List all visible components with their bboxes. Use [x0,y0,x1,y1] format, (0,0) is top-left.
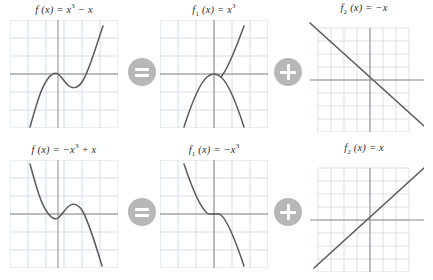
figure-row-1: f (x) = x3 − x [0,0,433,140]
plus-icon [274,58,302,86]
equals-bar-top [135,68,149,71]
plot-panel-neg-cubic-plus-x: f (x) = −x3 + x [6,140,122,280]
plus-bar-vertical [287,64,290,80]
line-path [314,168,424,268]
plot-area [10,20,118,128]
chart-svg [304,160,424,272]
plot-panel-cubic: f1 (x) = x3 [156,0,272,140]
figure-row-2: f (x) = −x3 + x [0,140,433,280]
chart-svg [160,160,268,268]
panel-title: f2 (x) = x [300,142,428,156]
equals-icon [128,58,156,86]
equals-bar-bottom [135,214,149,217]
panel-title: f1 (x) = x3 [156,2,272,18]
chart-svg [160,20,268,128]
equals-icon [128,198,156,226]
panel-title: f2 (x) = −x [300,2,428,16]
plot-panel-neg-cubic: f1 (x) = −x3 [156,140,272,280]
plot-area [10,160,118,268]
curve-path-upper [221,26,244,77]
chart-svg [10,20,118,128]
curve-path [30,26,103,127]
curve-path [30,164,102,266]
axes [310,28,424,132]
function-decomposition-figure: f (x) = x3 − x [0,0,433,280]
chart-svg [304,20,424,132]
plot-panel-cubic-minus-x: f (x) = x3 − x [6,0,122,140]
line-path [310,23,424,126]
equals-bar-bottom [135,74,149,77]
panel-title: f1 (x) = −x3 [156,142,272,158]
plot-area [304,160,424,272]
equals-bar-top [135,208,149,211]
plot-panel-negative-x: f2 (x) = −x [300,0,428,140]
panel-title: f (x) = x3 − x [6,2,122,15]
plus-icon [274,198,302,226]
plot-area [160,20,268,128]
plus-bar-vertical [287,204,290,220]
plot-area [160,160,268,268]
plot-panel-identity: f2 (x) = x [300,140,428,280]
chart-svg [10,160,118,268]
panel-title: f (x) = −x3 + x [6,142,122,155]
plot-area [304,20,424,132]
